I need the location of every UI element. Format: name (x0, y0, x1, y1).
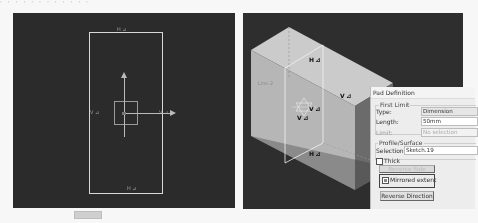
constraint-tag-center-b: V ⊿ (297, 114, 308, 121)
constraint-tag-center-a: V ⊿ (309, 105, 320, 112)
arrow-right-icon (170, 110, 176, 116)
first-limit-legend: First Limit (379, 101, 410, 108)
mirrored-extent-checkbox[interactable] (382, 177, 389, 184)
mirrored-extent-label: Mirrored extent (390, 176, 436, 183)
profile-surface-legend: Profile/Surface (378, 139, 424, 146)
face-label: Line.2 (258, 80, 273, 86)
thick-checkbox[interactable] (376, 158, 383, 165)
length-input[interactable]: 50mm (421, 117, 478, 126)
length-label: Length: (376, 118, 399, 125)
thick-label: Thick (384, 157, 400, 164)
constraint-tag-bottom: H ⊿ (309, 150, 320, 157)
origin-point-icon (122, 112, 126, 115)
constraint-label-left: V ⊿ (90, 109, 99, 115)
selection-label: Selection: (376, 147, 406, 154)
arrow-up-icon (121, 72, 127, 78)
reverse-side-button-visible[interactable]: Reverse Side (379, 165, 435, 173)
pad-definition-dialog: Pad Definition First Limit Type: Dimensi… (370, 87, 475, 209)
selection-input[interactable]: Sketch.19 (404, 146, 478, 155)
constraint-label-right: V ⊿ (159, 109, 168, 115)
limit-label: Limit: (376, 129, 393, 136)
constraint-tag-top: H ⊿ (309, 56, 320, 63)
limit-input[interactable]: No selection (421, 128, 478, 137)
constraint-label-top: H ⊿ (117, 26, 127, 32)
toolbar-button-fragment[interactable] (74, 211, 102, 219)
dialog-title: Pad Definition (373, 89, 415, 96)
horizontal-axis (124, 113, 174, 114)
type-select[interactable]: Dimension (421, 107, 478, 116)
top-caption-fragment: · · · · · · · · · · · · (0, 0, 474, 6)
type-label: Type: (376, 108, 392, 115)
reverse-direction-button[interactable]: Reverse Direction (380, 191, 434, 201)
vertical-axis (124, 75, 125, 137)
constraint-label-bottom: H ⊿ (127, 185, 137, 191)
constraint-tag-right: V ⊿ (340, 92, 351, 99)
sketch-viewport[interactable]: H ⊿ V ⊿ V ⊿ H ⊿ (13, 13, 235, 208)
